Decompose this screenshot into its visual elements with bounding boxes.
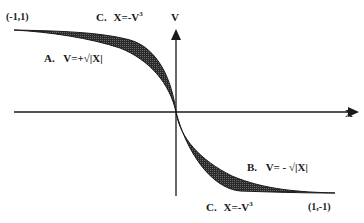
region-lower-right xyxy=(176,112,335,193)
curve-a-label: A. V=+√|X| xyxy=(44,52,103,64)
point-top-left: (-1,1) xyxy=(6,11,29,23)
x-axis-label: X xyxy=(345,107,353,119)
point-bottom-right: (1,-1) xyxy=(308,201,331,213)
phase-diagram: (-1,1) C. X=-V3 V A. V=+√|X| X B. V= - √… xyxy=(0,0,364,223)
v-axis-label: V xyxy=(171,11,179,23)
curve-b-label: B. V= - √|X| xyxy=(247,161,308,173)
curve-c-top-label: C. X=-V3 xyxy=(96,10,143,23)
v-axis-arrow-icon xyxy=(171,29,181,40)
curve-c-bottom-label: C. X=-V3 xyxy=(206,200,253,213)
region-upper-left xyxy=(14,30,176,112)
x-axis xyxy=(14,107,359,117)
